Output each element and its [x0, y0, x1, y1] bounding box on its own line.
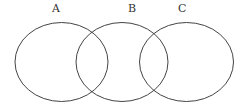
set-b-ellipse	[76, 23, 168, 102]
venn-canvas	[0, 0, 244, 106]
set-b-label: B	[128, 3, 136, 14]
set-c-ellipse	[140, 23, 234, 102]
set-a-ellipse	[15, 23, 108, 102]
set-a-label: A	[52, 3, 60, 14]
set-c-label: C	[178, 3, 186, 14]
